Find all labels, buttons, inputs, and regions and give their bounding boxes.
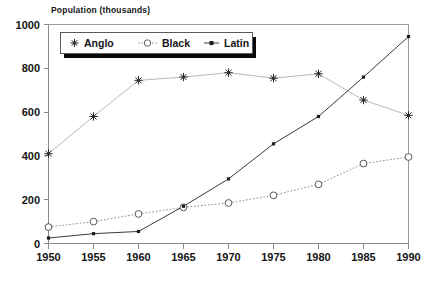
y-tick-label-200: 200 — [22, 194, 40, 206]
star-icon — [71, 39, 79, 47]
series-line-black — [49, 157, 409, 227]
series-markers-black — [45, 154, 412, 231]
open-circle-icon — [315, 181, 322, 188]
legend-label-latin: Latin — [224, 37, 249, 49]
star-icon — [359, 96, 367, 104]
star-icon — [179, 73, 187, 81]
open-circle-icon — [405, 154, 412, 161]
y-axis-ticks — [44, 25, 49, 244]
y-tick-label-1000: 1000 — [16, 19, 40, 31]
x-tick-label-1985: 1985 — [351, 251, 375, 263]
y-tick-label-600: 600 — [22, 106, 40, 118]
legend-label-black: Black — [162, 37, 190, 49]
y-tick-label-400: 400 — [22, 150, 40, 162]
y-tick-label-0: 0 — [34, 238, 40, 250]
open-circle-icon — [45, 224, 52, 231]
x-tick-label-1980: 1980 — [306, 251, 330, 263]
star-icon — [224, 68, 232, 76]
filled-square-icon — [227, 177, 230, 180]
x-tick-label-1970: 1970 — [216, 251, 240, 263]
x-tick-label-1960: 1960 — [126, 251, 150, 263]
star-icon — [314, 70, 322, 78]
x-tick-label-1965: 1965 — [171, 251, 195, 263]
filled-square-icon — [182, 205, 185, 208]
x-tick-label-1975: 1975 — [261, 251, 285, 263]
filled-square-icon — [92, 232, 95, 235]
chart-legend[interactable]: Anglo Black Latin — [61, 33, 257, 59]
chart-title: Population (thousands) — [51, 5, 150, 15]
data-series-layer — [44, 35, 412, 240]
open-circle-icon — [360, 160, 367, 167]
series-markers-latin — [47, 35, 410, 240]
x-tick-label-1990: 1990 — [396, 251, 420, 263]
filled-square-icon — [407, 35, 410, 38]
star-icon — [404, 111, 412, 119]
open-circle-icon — [225, 200, 232, 207]
filled-square-icon — [47, 236, 50, 239]
filled-square-icon — [362, 75, 365, 78]
legend-label-anglo: Anglo — [84, 37, 114, 49]
open-circle-icon — [90, 218, 97, 225]
y-axis-tick-labels: 1000 800 600 400 200 0 — [16, 19, 40, 250]
filled-square-icon — [317, 115, 320, 118]
star-icon — [269, 74, 277, 82]
open-circle-icon — [270, 192, 277, 199]
x-tick-label-1955: 1955 — [81, 251, 105, 263]
x-axis-ticks — [49, 244, 409, 249]
open-circle-icon — [135, 211, 142, 218]
x-tick-label-1950: 1950 — [36, 251, 60, 263]
star-icon — [89, 112, 97, 120]
star-icon — [134, 76, 142, 84]
series-line-latin — [49, 37, 409, 238]
filled-square-icon — [137, 230, 140, 233]
x-axis-tick-labels: 1950 1955 1960 1965 1970 1975 1980 1985 … — [36, 251, 420, 263]
chart-canvas: 1000 800 600 400 200 0 1950 1955 1960 19… — [0, 0, 428, 284]
filled-square-icon — [272, 142, 275, 145]
y-tick-label-800: 800 — [22, 62, 40, 74]
population-line-chart: 1000 800 600 400 200 0 1950 1955 1960 19… — [0, 0, 428, 284]
star-icon — [44, 150, 52, 158]
